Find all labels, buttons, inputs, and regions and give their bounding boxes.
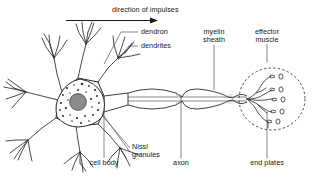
- nucleus: [70, 94, 87, 111]
- neuron-diagram: direction of impulses dendron dendrites …: [0, 0, 315, 189]
- arrow-right-icon: [66, 18, 158, 24]
- axon-myelin: [104, 89, 247, 112]
- label-nissl-line2: granules: [132, 151, 160, 159]
- label-effector-muscle-line2: muscle: [246, 36, 288, 44]
- label-direction-of-impulses: direction of impulses: [112, 6, 179, 14]
- label-end-plates: end plates: [241, 159, 293, 167]
- label-cell-body: cell body: [80, 159, 128, 167]
- label-axon: axon: [167, 159, 195, 167]
- label-dendrites: dendrites: [141, 42, 171, 50]
- label-dendron: dendron: [141, 28, 168, 36]
- label-myelin-sheath-line2: sheath: [196, 36, 232, 44]
